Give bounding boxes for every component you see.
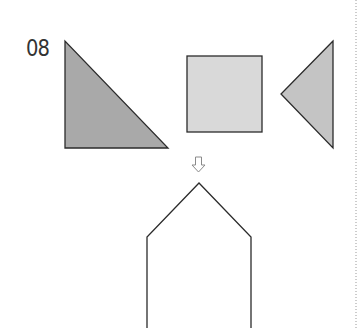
square-piece	[187, 56, 262, 132]
target-house-shape	[147, 183, 251, 328]
down-arrow-icon	[192, 157, 205, 172]
left-pointing-triangle-piece	[281, 41, 333, 148]
right-triangle-piece	[65, 41, 168, 148]
